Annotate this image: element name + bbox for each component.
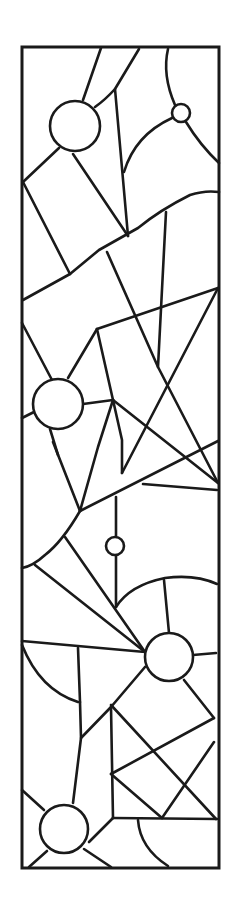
roundel-2: [172, 104, 190, 122]
lead-lines: [22, 48, 219, 867]
outer-frame: [22, 47, 219, 868]
roundel-6: [40, 805, 88, 853]
roundel-5: [145, 633, 193, 681]
roundel-3: [33, 379, 83, 429]
stained-glass-pattern: [0, 0, 232, 905]
roundel-4: [106, 537, 124, 555]
roundel-1: [50, 101, 100, 151]
